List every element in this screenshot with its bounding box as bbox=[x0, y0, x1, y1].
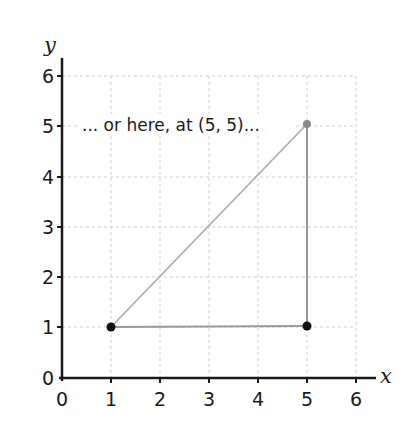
x-tick-0: 0 bbox=[56, 388, 68, 410]
segment-horizontal bbox=[111, 326, 307, 327]
y-tick-2: 2 bbox=[42, 266, 54, 288]
annotation-text: ... or here, at (5, 5)... bbox=[82, 115, 260, 135]
point-5-5 bbox=[303, 120, 311, 128]
x-tick-3: 3 bbox=[203, 388, 215, 410]
y-axis-label: y bbox=[43, 33, 57, 57]
x-axis-label: x bbox=[380, 364, 392, 388]
y-tick-3: 3 bbox=[42, 216, 54, 238]
y-tick-6: 6 bbox=[42, 65, 54, 87]
point-5-1 bbox=[303, 322, 312, 331]
x-tick-4: 4 bbox=[252, 388, 264, 410]
x-tick-1: 1 bbox=[105, 388, 117, 410]
y-tick-4: 4 bbox=[42, 166, 54, 188]
x-tick-5: 5 bbox=[301, 388, 313, 410]
x-tick-6: 6 bbox=[350, 388, 362, 410]
y-tick-5: 5 bbox=[42, 115, 54, 137]
y-tick-1: 1 bbox=[42, 316, 54, 338]
y-tick-0: 0 bbox=[42, 367, 54, 389]
point-1-1 bbox=[107, 323, 116, 332]
coordinate-plot: 0 1 2 3 4 5 6 0 1 2 3 4 5 6 y x ... or h… bbox=[0, 0, 402, 425]
x-tick-2: 2 bbox=[154, 388, 166, 410]
